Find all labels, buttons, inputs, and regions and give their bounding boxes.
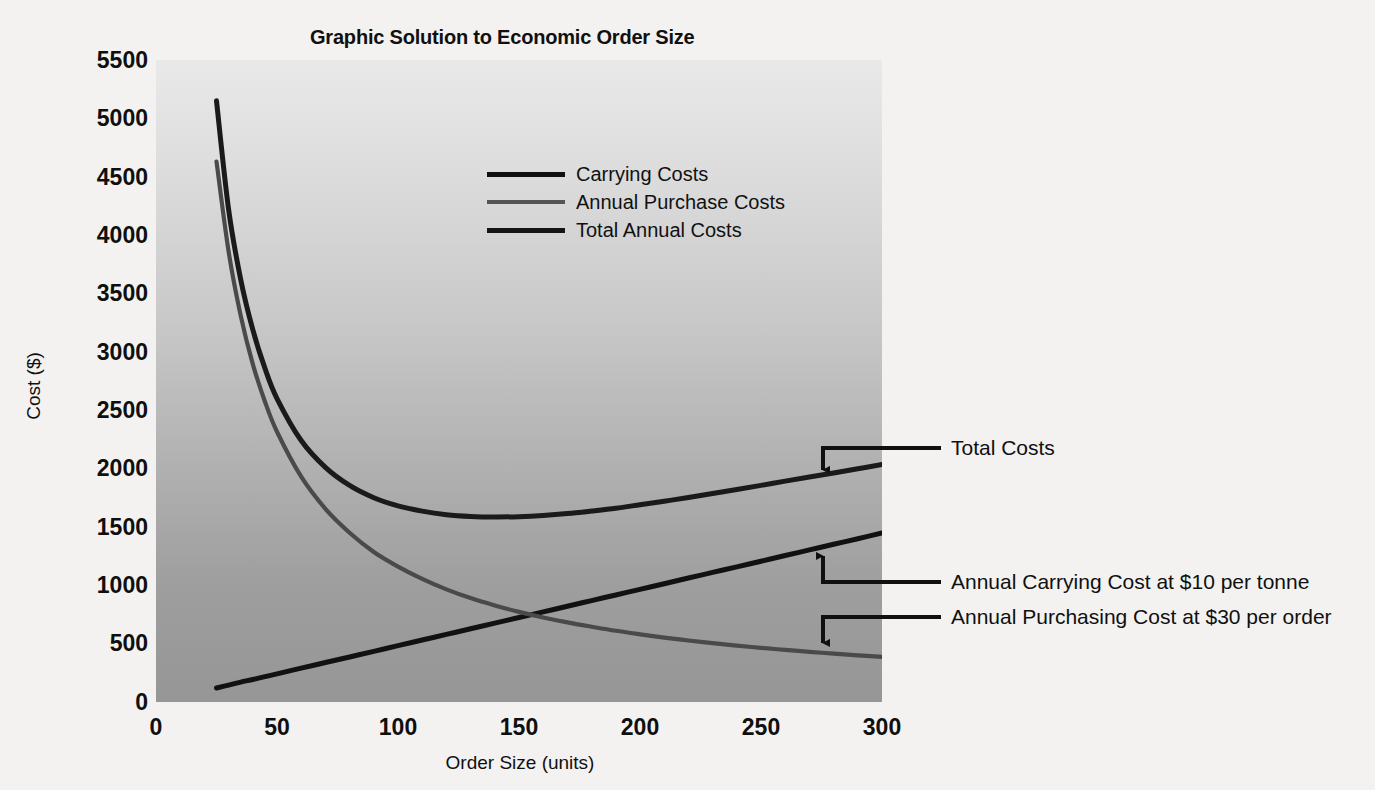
y-tick-3000: 3000 — [48, 341, 148, 364]
annotation-label-total-costs: Total Costs — [951, 437, 1055, 458]
legend-item-annual-purchase-costs[interactable]: Annual Purchase Costs — [487, 188, 807, 216]
chart-figure: Graphic Solution to Economic Order Size … — [0, 0, 1375, 790]
y-tick-5500: 5500 — [48, 49, 148, 72]
legend-label-total: Total Annual Costs — [576, 220, 742, 240]
x-tick-100: 100 — [353, 716, 443, 739]
legend-item-carrying-costs[interactable]: Carrying Costs — [487, 160, 807, 188]
y-axis-tick-labels: 5500 5000 4500 4000 3500 3000 2500 2000 … — [36, 0, 148, 790]
x-tick-300: 300 — [837, 716, 927, 739]
legend-label-carrying: Carrying Costs — [576, 164, 708, 184]
curve-carrying-costs — [217, 533, 883, 688]
y-tick-4500: 4500 — [48, 166, 148, 189]
y-axis-title: Cost ($) — [23, 326, 45, 446]
y-tick-1500: 1500 — [48, 516, 148, 539]
chart-title: Graphic Solution to Economic Order Size — [310, 26, 870, 49]
legend-line-swatch-purchase — [487, 200, 565, 204]
y-tick-2000: 2000 — [48, 457, 148, 480]
y-tick-2500: 2500 — [48, 399, 148, 422]
legend-line-swatch-carrying — [487, 172, 565, 177]
x-tick-0: 0 — [111, 716, 201, 739]
x-tick-150: 150 — [474, 716, 564, 739]
annotation-label-carrying-cost: Annual Carrying Cost at $10 per tonne — [951, 571, 1309, 592]
legend-item-total-annual-costs[interactable]: Total Annual Costs — [487, 216, 807, 244]
y-tick-5000: 5000 — [48, 107, 148, 130]
annotation-label-purchasing-cost: Annual Purchasing Cost at $30 per order — [951, 606, 1332, 627]
y-tick-3500: 3500 — [48, 282, 148, 305]
y-tick-0: 0 — [48, 691, 148, 714]
x-axis-title: Order Size (units) — [360, 752, 680, 774]
x-tick-200: 200 — [595, 716, 685, 739]
x-tick-250: 250 — [716, 716, 806, 739]
y-tick-1000: 1000 — [48, 574, 148, 597]
legend-line-swatch-total — [487, 228, 565, 233]
x-tick-50: 50 — [232, 716, 322, 739]
y-tick-4000: 4000 — [48, 224, 148, 247]
y-tick-500: 500 — [48, 632, 148, 655]
legend-label-purchase: Annual Purchase Costs — [576, 192, 785, 212]
chart-legend: Carrying Costs Annual Purchase Costs Tot… — [487, 160, 807, 244]
plot-area — [156, 60, 882, 702]
x-axis-tick-labels: 0 50 100 150 200 250 300 — [0, 716, 1375, 750]
plot-curves — [156, 60, 882, 702]
